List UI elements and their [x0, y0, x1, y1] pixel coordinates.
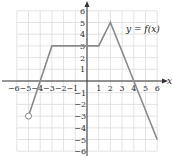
y-tick-label: 4 — [80, 30, 85, 39]
x-tick-label: −3 — [43, 84, 55, 93]
y-tick-label: −2 — [74, 100, 86, 109]
x-tick-label: −2 — [55, 84, 67, 93]
x-tick-label: 1 — [96, 84, 101, 93]
x-axis-label: x — [167, 76, 172, 86]
function-graph: −6−5−4−3−2−1123456123456−1−2−3−4−5−6 y =… — [0, 0, 172, 157]
y-tick-label: −3 — [74, 112, 86, 121]
x-tick-label: 3 — [120, 84, 125, 93]
x-tick-label: 6 — [155, 84, 160, 93]
y-tick-label: −1 — [74, 89, 86, 98]
x-tick-label: 2 — [108, 84, 113, 93]
y-tick-label: −6 — [74, 147, 86, 156]
y-tick-label: −5 — [74, 136, 86, 145]
y-tick-label: 6 — [80, 7, 85, 16]
y-tick-label: 2 — [80, 54, 85, 63]
x-tick-label: 5 — [143, 84, 148, 93]
x-tick-label: −5 — [20, 84, 32, 93]
y-tick-label: 5 — [80, 19, 85, 28]
open-endpoint-marker — [26, 113, 32, 119]
x-tick-label: −6 — [8, 84, 20, 93]
y-tick-label: 1 — [80, 65, 85, 74]
function-label: y = f(x) — [125, 24, 160, 34]
y-tick-label: −4 — [74, 124, 86, 133]
y-axis-arrow-icon — [85, 1, 90, 7]
